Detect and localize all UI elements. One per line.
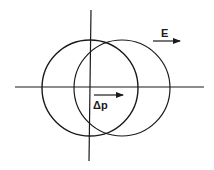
field-label: E: [161, 27, 168, 39]
shifted-circle: [74, 40, 170, 136]
vertical-axis: [89, 10, 91, 161]
momentum-shift-label: Δp: [93, 99, 108, 111]
fermi-sphere-shift-diagram: E Δp: [0, 0, 214, 170]
